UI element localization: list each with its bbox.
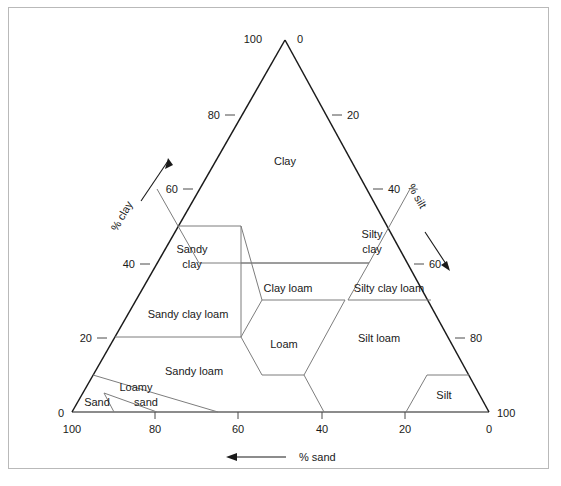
left-tick-60: 60 xyxy=(166,183,178,195)
right-tick-20: 20 xyxy=(347,109,359,121)
label-sandy-clay-line1: Sandy xyxy=(176,243,208,255)
label-silt-loam: Silt loam xyxy=(358,332,400,344)
right-edge xyxy=(285,40,489,412)
bottom-axis-title-group: % sand xyxy=(226,451,336,463)
bottom-axis-tick-labels: 100 80 60 40 20 0 xyxy=(63,423,492,435)
triangle-outline xyxy=(72,40,489,412)
right-tick-40: 40 xyxy=(388,183,400,195)
right-tick-100: 100 xyxy=(497,407,515,419)
corner-labels: 100 0 0 100 xyxy=(58,33,515,419)
label-loam: Loam xyxy=(270,338,298,350)
right-axis-tick-labels: 20 40 60 80 xyxy=(347,109,482,344)
label-sandy-loam: Sandy loam xyxy=(165,365,223,377)
bottom-axis-title: % sand xyxy=(299,451,336,463)
apex-left-label: 100 xyxy=(244,33,262,45)
label-loamy-sand-line2: sand xyxy=(134,396,158,408)
boundary-silt-loam-left xyxy=(304,375,324,412)
label-silt: Silt xyxy=(436,389,451,401)
right-axis-title: % silt xyxy=(406,182,430,211)
label-silty-clay-loam: Silty clay loam xyxy=(354,282,424,294)
apex-right-label: 0 xyxy=(297,33,303,45)
boundary-loam-left xyxy=(241,300,262,337)
label-clay: Clay xyxy=(274,155,297,167)
clay-arrow-line xyxy=(141,161,168,201)
label-sandy-clay-line2: clay xyxy=(182,258,202,270)
bottom-tick-80: 80 xyxy=(149,423,161,435)
class-boundaries xyxy=(93,189,469,412)
bottom-tick-40: 40 xyxy=(316,423,328,435)
boundary-loam-lower-left xyxy=(241,337,262,375)
ternary-diagram: 100 0 0 100 20 40 60 80 20 40 60 80 100 … xyxy=(0,0,561,486)
label-clay-loam: Clay loam xyxy=(264,282,313,294)
sand-arrow-head xyxy=(226,453,237,461)
left-tick-0: 0 xyxy=(58,407,64,419)
label-sandy-clay-loam: Sandy clay loam xyxy=(148,308,229,320)
bottom-tick-20: 20 xyxy=(399,423,411,435)
left-tick-20: 20 xyxy=(80,332,92,344)
soil-texture-triangle-page: 100 0 0 100 20 40 60 80 20 40 60 80 100 … xyxy=(0,0,561,486)
label-sand: Sand xyxy=(84,396,110,408)
left-axis-title: % clay xyxy=(108,199,135,233)
boundary-loam-right xyxy=(304,300,345,375)
bottom-tick-100: 100 xyxy=(63,423,81,435)
left-axis-title-group: % clay xyxy=(108,158,173,233)
right-tick-80: 80 xyxy=(470,332,482,344)
bottom-tick-0: 0 xyxy=(486,423,492,435)
right-tick-60: 60 xyxy=(429,258,441,270)
silt-arrow-head xyxy=(441,261,450,271)
label-silty-clay-line2: clay xyxy=(362,243,382,255)
bottom-tick-60: 60 xyxy=(232,423,244,435)
right-axis-title-group: % silt xyxy=(406,182,450,271)
label-loamy-sand-line1: Loamy xyxy=(119,381,153,393)
left-tick-80: 80 xyxy=(208,109,220,121)
left-tick-40: 40 xyxy=(123,258,135,270)
label-silty-clay-line1: Silty xyxy=(362,228,383,240)
boundary-silt-left xyxy=(406,375,427,412)
